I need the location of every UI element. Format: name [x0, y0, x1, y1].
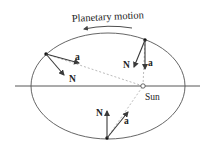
sun-marker	[141, 84, 145, 88]
normal-vector	[134, 40, 145, 67]
radius-line-1	[46, 54, 143, 86]
normal-label: N	[123, 60, 130, 70]
motion-direction-arrow	[84, 26, 132, 29]
planetary-motion-label: Planetary motion	[72, 9, 145, 24]
sun-label: Sun	[145, 92, 160, 102]
acceleration-label: a	[75, 52, 80, 62]
normal-label: N	[69, 74, 76, 84]
planet-3: N a	[96, 108, 129, 140]
planet-1: a N	[44, 52, 80, 84]
acceleration-label: a	[148, 58, 153, 68]
radius-line-3	[107, 86, 143, 138]
planet-2: a N	[123, 38, 153, 70]
normal-label: N	[96, 108, 103, 118]
acceleration-label: a	[124, 116, 129, 126]
orbit-diagram: Planetary motion Sun a N a N N a	[0, 0, 209, 148]
